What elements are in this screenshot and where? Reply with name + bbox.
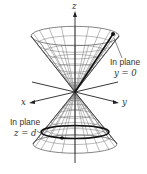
z-axis-arrow-icon — [73, 11, 77, 17]
lower-cone-generator — [50, 92, 75, 151]
y0-point — [111, 32, 115, 36]
y0-leader-line — [114, 38, 122, 58]
z-axis-label: z — [72, 2, 76, 11]
annotation-y0-line1: In plane — [110, 58, 140, 67]
annotation-zd-line1: In plane — [10, 118, 40, 127]
y0-generator-line — [75, 34, 113, 92]
lower-cone-generator — [75, 92, 109, 149]
y-axis-label: y — [122, 98, 127, 107]
lower-cone-generator — [41, 92, 75, 149]
upper-cone-generator — [39, 30, 75, 92]
y-axis-arrow-icon — [113, 100, 119, 104]
annotation-y0-line2: y = 0 — [114, 69, 137, 78]
x-axis-label: x — [21, 98, 26, 107]
lower-cone-generator — [50, 92, 75, 137]
upper-cone-generator — [49, 28, 75, 92]
lower-cone-generator — [75, 92, 100, 137]
x-axis-arrow-icon — [29, 100, 35, 104]
upper-cone-generator — [75, 28, 101, 92]
annotation-zd-line2: z = d — [14, 129, 36, 138]
zd-point — [60, 136, 64, 140]
upper-cone-generator — [49, 44, 75, 92]
lower-cone-generator — [75, 92, 100, 151]
double-cone-diagram — [0, 0, 147, 174]
